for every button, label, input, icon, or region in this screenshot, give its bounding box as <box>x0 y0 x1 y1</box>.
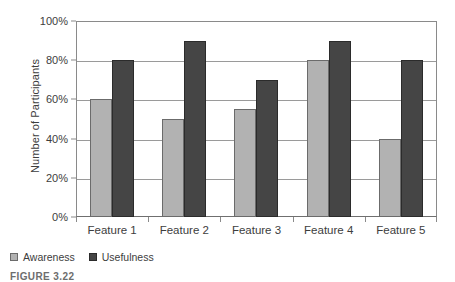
bar-usefulness-feature-4 <box>329 41 351 217</box>
bar-group <box>148 21 220 217</box>
bar-usefulness-feature-1 <box>112 60 134 217</box>
bar-group <box>365 21 437 217</box>
chart-legend: AwarenessUsefulness <box>10 251 154 263</box>
y-axis-ticks: 0%20%40%60%80%100% <box>0 21 76 217</box>
x-axis-ticks <box>76 217 437 223</box>
legend-label: Awareness <box>23 251 75 263</box>
x-tick-mark <box>436 217 437 222</box>
bar-usefulness-feature-5 <box>401 60 423 217</box>
y-tick-label: 0% <box>52 211 68 223</box>
legend-item-awareness[interactable]: Awareness <box>10 251 75 263</box>
bar-awareness-feature-4 <box>307 60 329 217</box>
legend-item-usefulness[interactable]: Usefulness <box>89 251 154 263</box>
x-tick-mark <box>293 217 294 222</box>
bar-group <box>220 21 292 217</box>
y-tick-label: 60% <box>46 93 68 105</box>
x-tick-label: Feature 4 <box>304 224 353 236</box>
bar-usefulness-feature-2 <box>184 41 206 217</box>
legend-swatch-icon <box>89 253 97 261</box>
y-tick-label: 20% <box>46 172 68 184</box>
x-tick-label: Feature 2 <box>160 224 209 236</box>
x-tick-mark <box>220 217 221 222</box>
x-tick-mark <box>365 217 366 222</box>
bar-group <box>76 21 148 217</box>
legend-swatch-icon <box>10 253 18 261</box>
y-tick-label: 100% <box>40 15 68 27</box>
x-tick-mark <box>76 217 77 222</box>
y-tick-label: 40% <box>46 133 68 145</box>
x-tick-label: Feature 3 <box>232 224 281 236</box>
legend-label: Usefulness <box>102 251 154 263</box>
x-axis-labels: Feature 1Feature 2Feature 3Feature 4Feat… <box>76 224 437 242</box>
x-tick-label: Feature 1 <box>87 224 136 236</box>
bar-awareness-feature-5 <box>379 139 401 217</box>
bar-awareness-feature-3 <box>234 109 256 217</box>
bars-layer <box>76 21 437 217</box>
x-tick-label: Feature 5 <box>376 224 425 236</box>
bar-awareness-feature-1 <box>90 99 112 217</box>
figure-caption: FIGURE 3.22 <box>10 271 74 282</box>
y-tick-label: 80% <box>46 54 68 66</box>
bar-awareness-feature-2 <box>162 119 184 217</box>
x-tick-mark <box>148 217 149 222</box>
bar-group <box>293 21 365 217</box>
bar-usefulness-feature-3 <box>256 80 278 217</box>
